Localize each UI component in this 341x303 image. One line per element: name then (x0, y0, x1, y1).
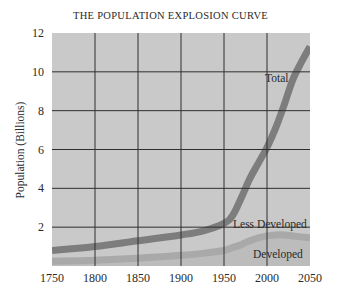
y-axis-label: Population (Billions) (14, 101, 27, 198)
series-label-total: Total (265, 72, 288, 84)
x-axis-ticks: 1750180018501900195020002050 (40, 271, 322, 285)
x-tick-label: 2000 (255, 271, 279, 285)
y-tick-label: 6 (38, 143, 44, 157)
y-tick-label: 2 (38, 220, 44, 234)
x-tick-label: 1900 (169, 271, 193, 285)
x-tick-label: 1850 (126, 271, 150, 285)
x-tick-label: 1950 (212, 271, 236, 285)
y-tick-label: 8 (38, 104, 44, 118)
series-label-less-developed: Less Developed (233, 218, 307, 231)
y-tick-label: 10 (32, 65, 44, 79)
x-tick-label: 1800 (83, 271, 107, 285)
series-label-developed: Developed (253, 248, 303, 261)
x-tick-label: 1750 (40, 271, 64, 285)
y-axis-ticks: 24681012 (32, 26, 44, 234)
x-tick-label: 2050 (298, 271, 322, 285)
y-tick-label: 4 (38, 181, 44, 195)
population-chart: 24681012 1750180018501900195020002050 Po… (0, 0, 341, 303)
y-tick-label: 12 (32, 26, 44, 40)
